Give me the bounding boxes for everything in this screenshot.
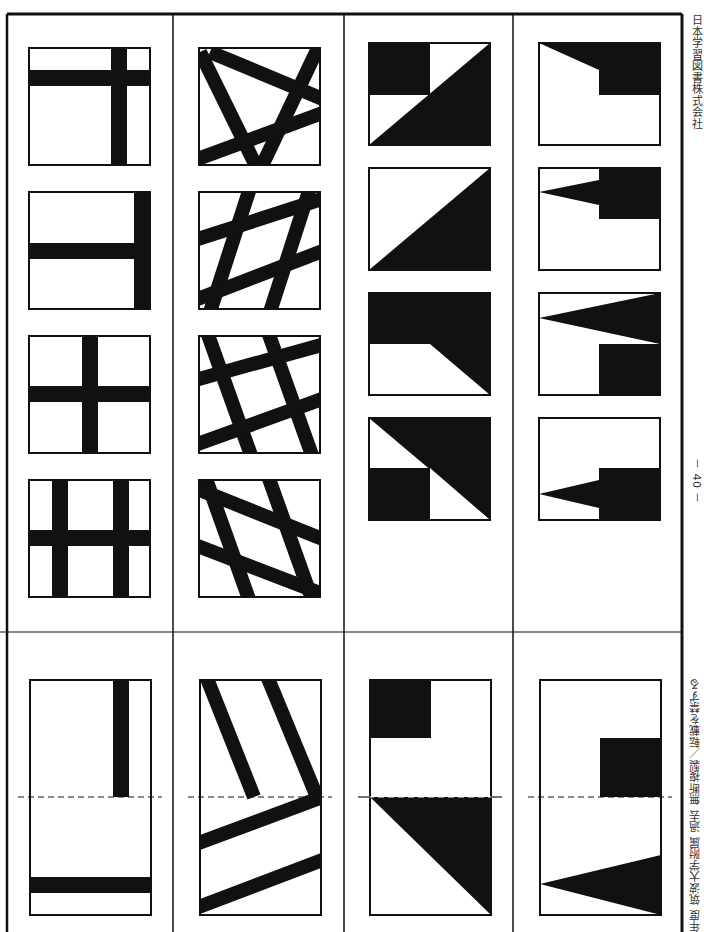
option-2-3[interactable] [195,332,325,458]
question-2 [188,676,332,915]
option-4-2[interactable] [539,168,660,270]
option-4-4[interactable] [539,418,660,520]
question-4 [528,680,672,915]
publisher-label: 日本学習図書株式会社 [688,14,704,129]
page-number: － 40 － [688,458,704,504]
option-2-2[interactable] [195,188,325,312]
option-2-4[interactable] [195,476,325,602]
option-3-3[interactable] [369,293,490,395]
problem-1 [18,48,162,915]
option-1-1[interactable] [29,48,150,165]
option-1-4[interactable] [29,480,150,597]
question-1 [18,680,162,915]
option-3-4[interactable] [369,418,490,520]
problem-2 [188,48,332,915]
option-1-2[interactable] [29,192,150,309]
copyright-notice: 年度 筑波大学附属 過去 無断複製／転載を禁ずる [688,660,704,932]
question-3 [358,680,502,915]
problem-4 [528,43,672,915]
option-4-3[interactable] [539,293,660,395]
option-3-2[interactable] [369,168,490,270]
problem-3 [358,43,502,915]
option-2-1[interactable] [195,48,325,170]
option-3-1[interactable] [369,43,490,145]
option-1-3[interactable] [29,336,150,453]
option-4-1[interactable] [539,43,660,145]
